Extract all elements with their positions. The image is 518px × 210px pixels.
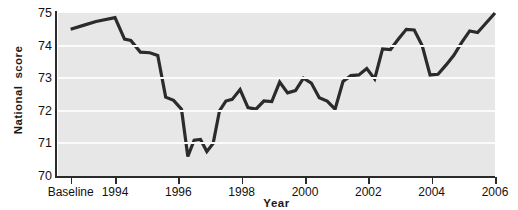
x-tick-mark-2002 [368,177,370,184]
y-axis-title-label: National score [12,46,24,134]
y-tick-label-74: 74 [30,40,52,53]
x-tick-mark-1998 [242,177,244,184]
gridline-73 [58,77,495,79]
x-tick-mark-1996 [178,177,180,184]
y-axis-line [55,11,57,178]
x-axis-line [55,176,495,178]
gridline-74 [58,45,495,47]
gridline-71 [58,142,495,144]
x-tick-mark-2000 [305,177,307,184]
series-line-national-score [58,13,495,176]
y-axis-tick-labels: 757473727170 [26,0,52,210]
plot-area [58,13,495,176]
gridline-72 [58,110,495,112]
national-score-line-chart: National score 757473727170 Baseline1994… [0,0,518,210]
x-tick-mark-baseline [71,177,73,184]
x-tick-mark-2004 [432,177,434,184]
y-tick-label-70: 70 [30,170,52,183]
x-tick-mark-2006 [495,177,497,184]
y-tick-label-73: 73 [30,72,52,85]
x-tick-mark-1994 [115,177,117,184]
y-tick-label-75: 75 [30,7,52,20]
x-axis-title: Year [58,197,495,209]
y-tick-label-72: 72 [30,105,52,118]
y-tick-label-71: 71 [30,137,52,150]
series-polyline [71,13,495,156]
